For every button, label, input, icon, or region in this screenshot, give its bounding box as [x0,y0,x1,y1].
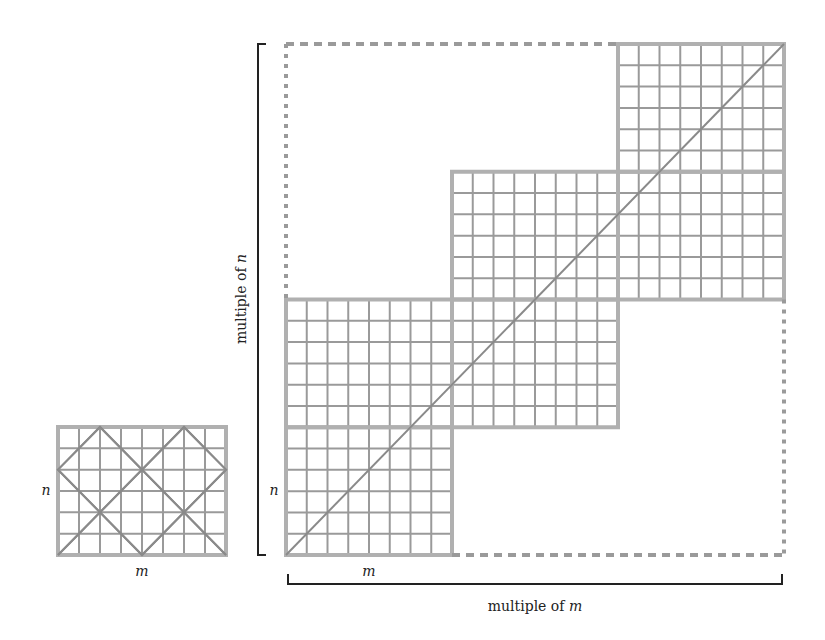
small-grid [58,427,226,555]
big-grid [286,44,784,555]
small-grid-n-label: n [41,482,50,498]
vertical-axis-label: multiple of n [233,254,249,344]
small-grid-m-label: m [135,563,148,579]
big-grid-n-label: n [269,482,278,498]
diagram-canvas: multiple of n multiple of m n m n m [0,0,825,640]
horizontal-axis-label: multiple of m [488,598,582,614]
big-grid-m-label: m [362,563,375,579]
vertical-bracket [258,44,266,555]
